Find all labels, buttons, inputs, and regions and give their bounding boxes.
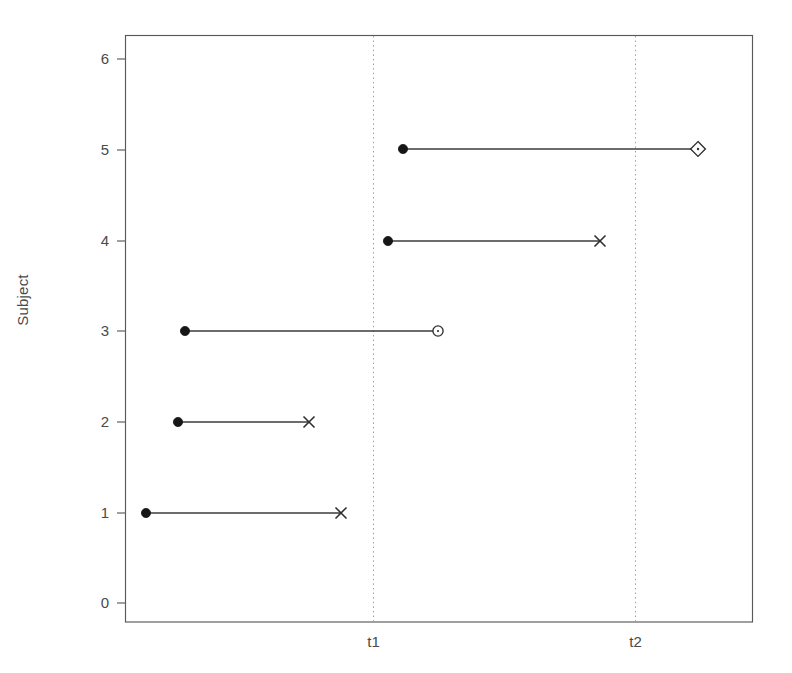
y-tick-label-4: 4: [101, 232, 109, 249]
reference-lines: [374, 36, 636, 621]
x-axis-tick-labels: t1 t2: [367, 633, 642, 650]
y-axis-tick-labels: 6 5 4 3 2 1 0: [101, 50, 109, 611]
series-subject-4: [383, 236, 605, 247]
y-tick-label-6: 6: [101, 50, 109, 67]
y-tick-label-1: 1: [101, 504, 109, 521]
marker-start-filled-circle-subject-3: [180, 326, 189, 335]
y-tick-label-2: 2: [101, 413, 109, 430]
marker-start-filled-circle-subject-4: [383, 236, 392, 245]
x-tick-label-t1: t1: [367, 633, 380, 650]
series-subject-5: [398, 142, 705, 157]
series-subject-2: [173, 417, 314, 428]
marker-end-open-circle-center-dot-subject-3: [437, 330, 439, 332]
y-tick-label-5: 5: [101, 141, 109, 158]
y-tick-label-0: 0: [101, 594, 109, 611]
marker-start-filled-circle-subject-5: [398, 144, 407, 153]
plot-area: 6 5 4 3 2 1 0 t1 t2: [0, 0, 792, 673]
marker-start-filled-circle-subject-2: [173, 417, 182, 426]
marker-end-open-diamond-center-dot-subject-5: [697, 148, 699, 150]
y-tick-label-3: 3: [101, 322, 109, 339]
series-subject-3: [180, 326, 443, 336]
y-axis-ticks: [117, 59, 125, 603]
x-tick-label-t2: t2: [629, 633, 642, 650]
series-subject-1: [141, 508, 346, 519]
marker-start-filled-circle-subject-1: [141, 508, 150, 517]
chart-figure: Subject 6 5 4 3 2 1 0: [0, 0, 792, 673]
